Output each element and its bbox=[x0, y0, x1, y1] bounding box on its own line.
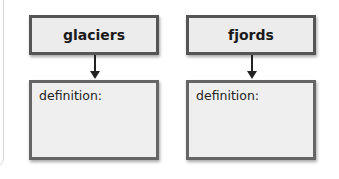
down-arrow-icon bbox=[90, 55, 100, 79]
term-label: fjords bbox=[228, 27, 274, 43]
panel-border bbox=[0, 0, 4, 168]
term-box-fjords: fjords bbox=[186, 15, 316, 55]
definition-box-glaciers[interactable]: definition: bbox=[29, 80, 159, 160]
down-arrow-icon bbox=[247, 55, 257, 79]
definition-label: definition: bbox=[196, 88, 259, 103]
term-label: glaciers bbox=[63, 27, 125, 43]
definition-label: definition: bbox=[39, 88, 102, 103]
term-box-glaciers: glaciers bbox=[29, 15, 159, 55]
definition-box-fjords[interactable]: definition: bbox=[186, 80, 316, 160]
